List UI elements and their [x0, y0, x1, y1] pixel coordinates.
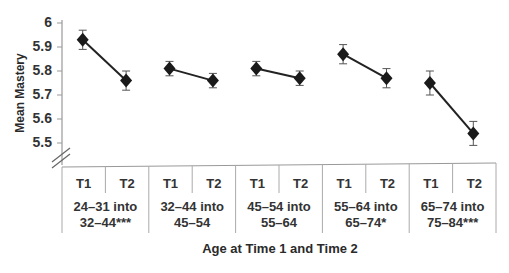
- time-label-t1: T1: [236, 176, 279, 191]
- time-label-t2: T2: [192, 176, 235, 191]
- diamond-marker-icon: [164, 62, 176, 76]
- time-label-t1: T1: [149, 176, 192, 191]
- y-tick-label: 5.7: [12, 86, 52, 102]
- diamond-marker-icon: [381, 71, 393, 85]
- time-label-t1: T1: [62, 176, 105, 191]
- time-label-t1: T1: [322, 176, 365, 191]
- time-label-t2: T2: [105, 176, 148, 191]
- diamond-marker-icon: [207, 74, 219, 88]
- time-label-t2: T2: [279, 176, 322, 191]
- y-tick-label: 5.9: [12, 38, 52, 54]
- x-axis-label: Age at Time 1 and Time 2: [180, 241, 380, 256]
- axis-break-icon: [52, 148, 70, 162]
- time-label-t1: T1: [409, 176, 452, 191]
- series-line: [256, 69, 299, 79]
- time-label-t2: T2: [366, 176, 409, 191]
- diamond-marker-icon: [294, 71, 306, 85]
- diamond-marker-icon: [337, 47, 349, 61]
- y-tick-label: 6: [12, 14, 52, 30]
- series-line: [170, 69, 213, 81]
- age-group-label: 55–64 into65–74*: [322, 199, 409, 231]
- age-group-label: 32–44 into45–54: [149, 199, 236, 231]
- y-tick-label: 5.8: [12, 62, 52, 78]
- series-line: [430, 83, 473, 133]
- y-tick-label: 5.6: [12, 110, 52, 126]
- diamond-marker-icon: [250, 62, 262, 76]
- age-group-label: 24–31 into32–44***: [62, 199, 149, 231]
- axis-break-icon: [52, 154, 70, 168]
- age-group-label: 65–74 into75–84***: [409, 199, 496, 231]
- time-label-t2: T2: [453, 176, 496, 191]
- age-group-label: 45–54 into55–64: [236, 199, 323, 231]
- series-line: [83, 40, 126, 81]
- y-tick-label: 5.5: [12, 134, 52, 150]
- chart-canvas: [0, 0, 509, 273]
- series-line: [343, 54, 386, 78]
